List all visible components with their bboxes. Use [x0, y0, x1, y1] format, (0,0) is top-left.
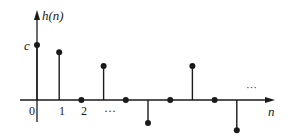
- c-label: c: [24, 38, 30, 53]
- y-axis-arrow-icon: [34, 10, 40, 20]
- stem-marker: [189, 63, 195, 69]
- stem-marker: [101, 63, 107, 69]
- stem-plot: h(n) c n 012··· ···: [0, 0, 294, 138]
- stem-marker: [167, 97, 173, 103]
- y-axis-label: h(n): [42, 8, 64, 23]
- stem-marker: [212, 97, 218, 103]
- stem-marker: [234, 127, 240, 133]
- x-tick-label: ···: [104, 104, 116, 118]
- stem-marker: [78, 97, 84, 103]
- stem-marker: [123, 97, 129, 103]
- x-tick-labels: 012···: [29, 104, 116, 118]
- stem-marker: [145, 120, 151, 126]
- x-tick-label: 0: [29, 104, 35, 118]
- ellipsis-upper: ···: [246, 81, 257, 93]
- x-axis-arrow-icon: [265, 97, 275, 103]
- stems: [34, 42, 240, 133]
- x-tick-label: 1: [59, 104, 65, 118]
- x-axis-label: n: [268, 104, 275, 119]
- stem-marker: [56, 49, 62, 55]
- stem-marker: [34, 42, 40, 48]
- x-tick-label: 2: [81, 104, 87, 118]
